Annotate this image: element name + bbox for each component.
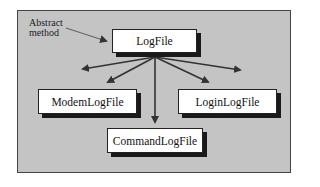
class-loginlogfile: LoginLogFile xyxy=(178,89,277,114)
annotation-line2: method xyxy=(29,28,63,38)
class-logfile: LogFile xyxy=(112,29,197,53)
annotation-arrow xyxy=(66,28,106,41)
abstract-method-annotation: Abstract method xyxy=(29,18,63,38)
class-modemlogfile-label: ModemLogFile xyxy=(51,96,123,108)
class-commandlogfile-label: CommandLogFile xyxy=(113,135,197,147)
class-commandlogfile: CommandLogFile xyxy=(107,128,203,153)
class-modemlogfile: ModemLogFile xyxy=(38,89,137,114)
class-loginlogfile-label: LoginLogFile xyxy=(196,96,260,108)
class-logfile-label: LogFile xyxy=(136,35,172,47)
